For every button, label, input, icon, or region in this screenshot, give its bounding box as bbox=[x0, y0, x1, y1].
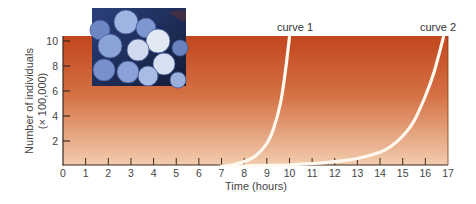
x-tick-label: 2 bbox=[105, 167, 111, 179]
x-tick-label: 0 bbox=[60, 167, 66, 179]
x-tick-label: 13 bbox=[352, 167, 364, 179]
y-tick-label: 4 bbox=[52, 110, 58, 122]
x-tick-label: 15 bbox=[397, 167, 409, 179]
x-axis-title: Time (hours) bbox=[225, 180, 287, 192]
x-tick-label: 8 bbox=[241, 167, 247, 179]
x-tick-label: 14 bbox=[374, 167, 386, 179]
x-tick-label: 7 bbox=[219, 167, 225, 179]
y-tick-label: 8 bbox=[52, 60, 58, 72]
x-tick-label: 17 bbox=[442, 167, 454, 179]
y-tick-label: 6 bbox=[52, 85, 58, 97]
y-tick-label: 2 bbox=[52, 135, 58, 147]
x-tick-label: 6 bbox=[196, 167, 202, 179]
x-tick-label: 3 bbox=[128, 167, 134, 179]
x-tick-label: 9 bbox=[264, 167, 270, 179]
x-tick-label: 10 bbox=[284, 167, 296, 179]
x-tick-label: 12 bbox=[329, 167, 341, 179]
x-tick-label: 5 bbox=[173, 167, 179, 179]
growth-chart: 246810 01234567891011121314151617 curve … bbox=[0, 0, 476, 204]
x-tick-label: 16 bbox=[420, 167, 432, 179]
y-axis-title: Number of individuals bbox=[23, 48, 35, 154]
x-tick-label: 11 bbox=[307, 167, 318, 179]
bacteria-photo bbox=[90, 8, 188, 88]
curve-1-label: curve 1 bbox=[277, 21, 313, 33]
y-axis-subtitle: (× 100,000) bbox=[36, 73, 48, 130]
x-tick-label: 4 bbox=[151, 167, 157, 179]
x-tick-label: 1 bbox=[83, 167, 89, 179]
y-tick-label: 10 bbox=[46, 35, 58, 47]
curve-2-label: curve 2 bbox=[420, 21, 456, 33]
